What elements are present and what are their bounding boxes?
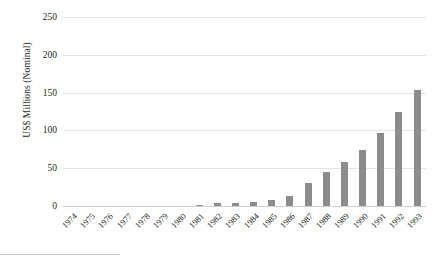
x-axis-tick-label: 1993 (405, 211, 424, 230)
x-axis-tick-label: 1975 (78, 211, 97, 230)
bar-slot (226, 17, 244, 206)
x-tick-slot: 1987 (299, 207, 317, 253)
x-axis-tick-label: 1978 (133, 211, 152, 230)
plot-area: 050100150200250 (63, 17, 426, 206)
x-tick-slot: 1991 (372, 207, 390, 253)
x-tick-slot: 1992 (390, 207, 408, 253)
x-tick-slot: 1984 (245, 207, 263, 253)
x-axis-tick-label: 1976 (96, 211, 115, 230)
x-axis-tick-label: 1986 (278, 211, 297, 230)
bar-slot (63, 17, 81, 206)
x-tick-slot: 1978 (136, 207, 154, 253)
x-tick-slot: 1979 (154, 207, 172, 253)
x-axis-tick-label: 1979 (151, 211, 170, 230)
x-axis-tick-labels: 1974197519761977197819791980198119821983… (63, 207, 426, 253)
x-tick-slot: 1980 (172, 207, 190, 253)
bar (377, 133, 384, 206)
bar (359, 150, 366, 206)
x-tick-slot: 1985 (263, 207, 281, 253)
y-axis-tick-label: 0 (52, 201, 57, 211)
bar-chart-figure: US$ Millions (Nominal) 050100150200250 1… (0, 0, 433, 256)
x-tick-slot: 1993 (408, 207, 426, 253)
bar-slot (372, 17, 390, 206)
x-axis-tick-label: 1980 (169, 211, 188, 230)
bar-slot (136, 17, 154, 206)
y-axis-tick-label: 150 (43, 88, 57, 98)
bar-slot (99, 17, 117, 206)
x-tick-slot: 1975 (81, 207, 99, 253)
bar-slot (208, 17, 226, 206)
x-axis-tick-label: 1990 (350, 211, 369, 230)
bar (414, 90, 421, 206)
x-axis-tick-label: 1985 (260, 211, 279, 230)
x-tick-slot: 1977 (117, 207, 135, 253)
x-axis-tick-label: 1989 (332, 211, 351, 230)
x-tick-slot: 1976 (99, 207, 117, 253)
bar-slot (81, 17, 99, 206)
bar (305, 183, 312, 206)
x-tick-slot: 1982 (208, 207, 226, 253)
bar-slot (408, 17, 426, 206)
x-axis-tick-label: 1982 (205, 211, 224, 230)
bar-slot (317, 17, 335, 206)
x-tick-slot: 1990 (354, 207, 372, 253)
y-axis-tick-label: 50 (48, 163, 58, 173)
x-tick-slot: 1989 (335, 207, 353, 253)
x-axis-tick-label: 1984 (241, 211, 260, 230)
y-axis-tick-label: 250 (43, 12, 57, 22)
x-axis-tick-label: 1974 (60, 211, 79, 230)
bar-slot (390, 17, 408, 206)
x-tick-slot: 1981 (190, 207, 208, 253)
x-axis-tick-label: 1977 (114, 211, 133, 230)
x-axis-tick-label: 1981 (187, 211, 206, 230)
bar-slot (190, 17, 208, 206)
bar (341, 162, 348, 206)
bar-slot (154, 17, 172, 206)
bottom-edge-rule (0, 254, 120, 255)
bar-slot (117, 17, 135, 206)
y-axis-title: US$ Millions (Nominal) (18, 0, 36, 190)
x-tick-slot: 1988 (317, 207, 335, 253)
x-tick-slot: 1986 (281, 207, 299, 253)
x-axis-tick-label: 1987 (296, 211, 315, 230)
y-axis-tick-label: 200 (43, 50, 57, 60)
x-axis-tick-label: 1992 (387, 211, 406, 230)
y-axis-tick-label: 100 (43, 125, 57, 135)
bar-slot (299, 17, 317, 206)
bar-slot (245, 17, 263, 206)
bar-slot (354, 17, 372, 206)
x-tick-slot: 1974 (63, 207, 81, 253)
bar-slot (172, 17, 190, 206)
x-tick-slot: 1983 (226, 207, 244, 253)
bar (286, 196, 293, 206)
x-axis-tick-label: 1991 (369, 211, 388, 230)
bar-slot (263, 17, 281, 206)
x-axis-tick-label: 1983 (223, 211, 242, 230)
bar (395, 112, 402, 206)
bar-slot (281, 17, 299, 206)
x-axis-tick-label: 1988 (314, 211, 333, 230)
bars-layer (63, 17, 426, 206)
bar-slot (335, 17, 353, 206)
bar (323, 172, 330, 206)
